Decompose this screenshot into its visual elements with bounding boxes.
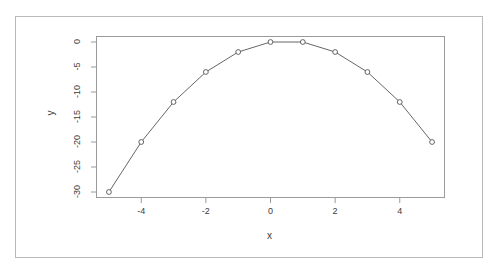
y-axis-tick-label: 0 [73, 31, 82, 53]
y-axis-tick-label: -20 [73, 131, 82, 153]
y-axis-tick-label: -25 [73, 156, 82, 178]
x-axis-tick-label: 2 [329, 207, 341, 216]
x-axis-tick-label: 0 [265, 207, 277, 216]
y-axis-tick-label: -15 [73, 106, 82, 128]
y-axis-tick-label: -10 [73, 81, 82, 103]
plot-screenshot: -4-20240-5-10-15-20-25-30 x y [0, 0, 498, 275]
plot-box [96, 36, 445, 198]
x-axis-tick-label: 4 [394, 207, 406, 216]
x-axis-title: x [267, 231, 272, 241]
y-axis-tick-label: -30 [73, 181, 82, 203]
x-axis-tick-label: -2 [200, 207, 212, 216]
y-axis-tick-label: -5 [73, 56, 82, 78]
y-axis-title: y [46, 111, 56, 116]
x-axis-tick-label: -4 [135, 207, 147, 216]
